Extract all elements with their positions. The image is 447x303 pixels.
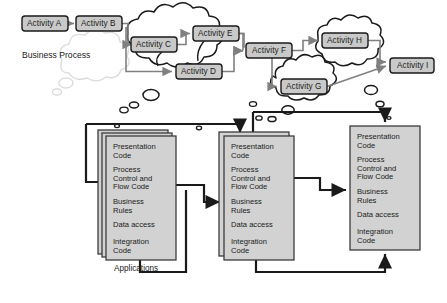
activity-label-C: Activity C — [136, 40, 171, 49]
app3-layer-data-access: Data access — [357, 211, 399, 220]
app3-layer-business-rules: Business Rules — [357, 188, 388, 205]
app2-layer-integration-code: Integration Code — [231, 238, 267, 255]
app3-layer-integration-code: Integration Code — [357, 228, 393, 245]
app1-layer-process-control-flow-code: Process Control and Flow Code — [113, 166, 152, 192]
diagram-svg — [0, 0, 447, 303]
app1-layer-business-rules: Business Rules — [113, 198, 144, 215]
app1-layer-presentation-code: Presentation Code — [113, 143, 156, 160]
app3-layer-presentation-code: Presentation Code — [357, 133, 400, 150]
app2-layer-process-control-flow-code: Process Control and Flow Code — [231, 166, 270, 192]
cloud-ghost-business-process — [53, 29, 130, 95]
activity-label-H: Activity H — [327, 36, 362, 45]
applications-label: Applications — [114, 264, 158, 273]
app2-layer-business-rules: Business Rules — [231, 198, 262, 215]
activity-label-D: Activity D — [181, 67, 216, 76]
app2-layer-presentation-code: Presentation Code — [231, 143, 274, 160]
activity-label-E: Activity E — [198, 29, 233, 38]
cloud-activities-cde — [127, 3, 223, 108]
activity-label-F: Activity F — [252, 46, 286, 55]
activity-label-B: Activity B — [81, 19, 116, 28]
app3-layer-process-control-flow-code: Process Control and Flow Code — [357, 156, 396, 182]
activity-label-I: Activity I — [397, 61, 428, 70]
activity-label-G: Activity G — [286, 82, 322, 91]
diagram-canvas: Activity A Activity B Activity C Activit… — [0, 0, 447, 303]
app2-layer-data-access: Data access — [231, 221, 273, 230]
app1-layer-integration-code: Integration Code — [113, 238, 149, 255]
app1-layer-data-access: Data access — [113, 221, 155, 230]
activity-label-A: Activity A — [27, 19, 61, 28]
business-process-label: Business Process — [22, 50, 90, 60]
